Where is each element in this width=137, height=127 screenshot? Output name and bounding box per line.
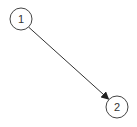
graph-canvas: 1 2 [0,0,137,127]
node-1[interactable]: 1 [10,8,32,30]
edge-1-to-2 [29,27,109,99]
node-1-label: 1 [18,13,24,25]
node-2-label: 2 [114,101,120,113]
node-2[interactable]: 2 [106,96,128,118]
